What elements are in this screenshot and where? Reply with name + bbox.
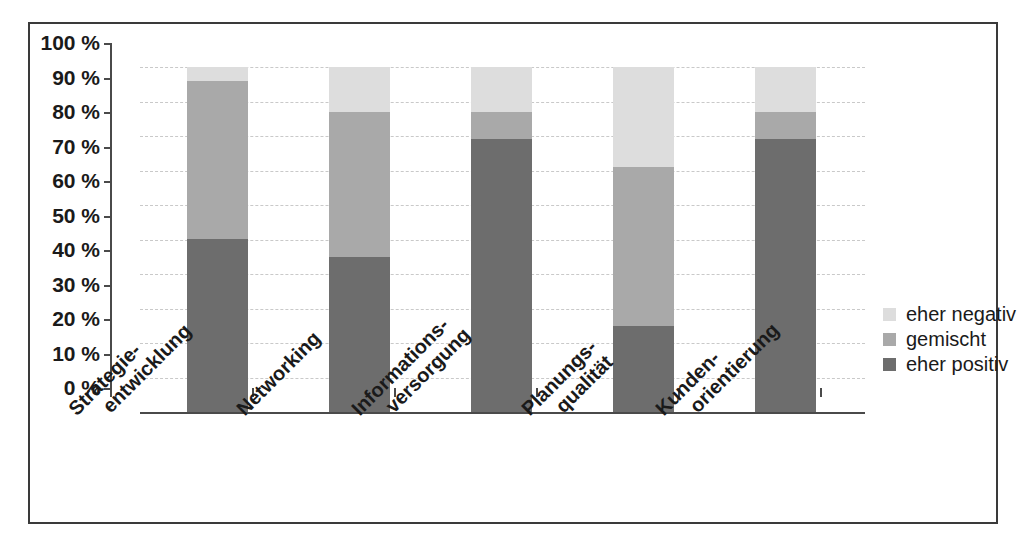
y-tick-20 — [104, 319, 112, 321]
bar-segment-eher-negativ — [613, 67, 674, 167]
y-axis-label: 30 % — [22, 273, 100, 297]
y-tick-40 — [104, 250, 112, 252]
y-axis-label: 50 % — [22, 204, 100, 228]
bar-segment-gemischt — [471, 112, 532, 140]
legend-swatch-icon — [883, 308, 896, 321]
bar-strategieentwicklung — [187, 67, 248, 412]
bar-segment-eher-negativ — [471, 67, 532, 112]
legend-item-eher-negativ[interactable]: eher negativ — [883, 302, 1023, 326]
bar-networking — [329, 67, 390, 412]
y-axis-label: 90 % — [22, 66, 100, 90]
y-axis-label: 100 % — [22, 31, 100, 55]
bar-kundenorientierung — [755, 67, 816, 412]
y-tick-50 — [104, 216, 112, 218]
y-tick-70 — [104, 147, 112, 149]
bar-informationsversorgung — [471, 67, 532, 412]
y-axis-label: 70 % — [22, 135, 100, 159]
legend-swatch-icon — [883, 333, 896, 346]
y-axis-label: 40 % — [22, 238, 100, 262]
y-axis-label: 10 % — [22, 342, 100, 366]
legend-label: eher positiv — [906, 353, 1008, 376]
legend-label: gemischt — [906, 328, 986, 351]
legend-swatch-icon — [883, 358, 896, 371]
legend-label: eher negativ — [906, 303, 1016, 326]
chart-legend: eher negativ gemischt eher positiv — [883, 302, 1023, 377]
y-tick-90 — [104, 78, 112, 80]
x-tick-5 — [820, 388, 822, 397]
y-tick-100 — [104, 43, 112, 45]
y-tick-30 — [104, 285, 112, 287]
bar-segment-eher-positiv — [471, 139, 532, 412]
legend-item-eher-positiv[interactable]: eher positiv — [883, 352, 1023, 376]
y-tick-10 — [104, 354, 112, 356]
bar-segment-gemischt — [187, 81, 248, 240]
y-axis-label: 60 % — [22, 169, 100, 193]
bar-planungsqualitaet — [613, 67, 674, 412]
chart-frame: eher negativ gemischt eher positiv — [28, 22, 998, 524]
legend-item-gemischt[interactable]: gemischt — [883, 327, 1023, 351]
y-axis-label: 80 % — [22, 100, 100, 124]
bar-segment-gemischt — [613, 167, 674, 326]
bar-segment-eher-positiv — [187, 239, 248, 412]
y-axis-label: 20 % — [22, 307, 100, 331]
bar-segment-eher-negativ — [187, 67, 248, 81]
bar-segment-eher-positiv — [755, 139, 816, 412]
y-axis-labels: 100 % 90 % 80 % 70 % 60 % 50 % 40 % 30 %… — [18, 0, 100, 543]
bar-segment-gemischt — [755, 112, 816, 140]
y-tick-80 — [104, 112, 112, 114]
bar-segment-gemischt — [329, 112, 390, 257]
bar-segment-eher-negativ — [329, 67, 390, 112]
y-tick-60 — [104, 181, 112, 183]
bar-segment-eher-negativ — [755, 67, 816, 112]
